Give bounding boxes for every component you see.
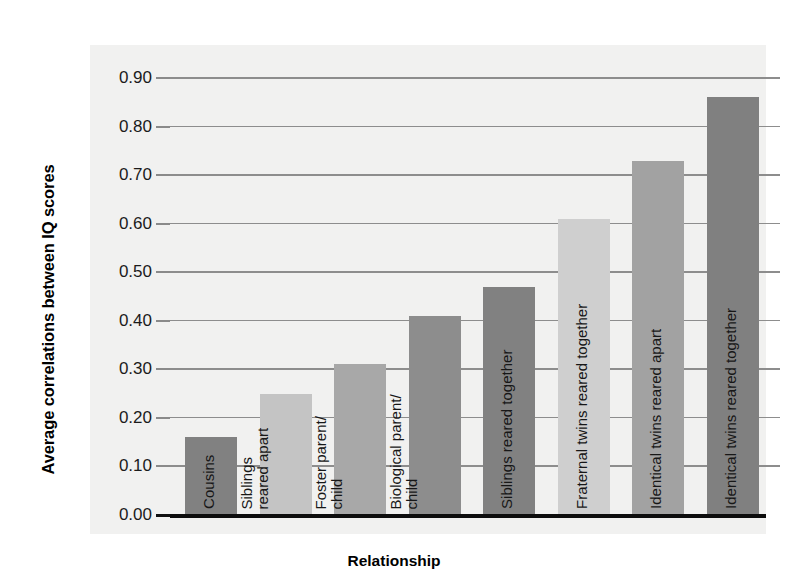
- y-axis-tick-mark: [156, 465, 170, 467]
- y-axis-tick-mark: [156, 223, 170, 225]
- y-axis-tick-mark: [156, 126, 170, 128]
- y-axis-tick-label: 0.10: [98, 457, 152, 474]
- y-axis-tick-label: 0.30: [98, 360, 152, 377]
- bar-category-label: Cousins: [201, 455, 217, 509]
- bar-category-label-line: Fraternal twins reared together: [573, 304, 590, 509]
- y-axis-tick-label: 0.90: [98, 69, 152, 86]
- y-axis-tick-mark: [156, 271, 170, 273]
- y-axis-tick-mark: [156, 417, 170, 419]
- gridline-right-stub: [766, 126, 780, 128]
- bar-category-label: Foster parent/child: [313, 416, 345, 509]
- bar-category-label: Siblings reared together: [499, 350, 515, 509]
- bar-category-label-line: Biological parent/: [386, 394, 403, 509]
- y-axis-title: Average correlations between IQ scores: [39, 120, 58, 520]
- gridline-right-stub: [766, 465, 780, 467]
- y-axis-tick-label: 0.60: [98, 215, 152, 232]
- plot-inner-region: CousinsSiblingsreared apartFoster parent…: [170, 45, 766, 534]
- bar-slot: Identical twins reared apart: [632, 45, 684, 534]
- y-axis-tick-labels: 0.900.800.700.600.500.400.300.200.100.00: [90, 45, 152, 534]
- x-axis-title: Relationship: [0, 552, 788, 570]
- bar-category-label: Biological parent/child: [387, 394, 419, 509]
- bar-category-label-line: Identical twins reared together: [722, 308, 739, 509]
- bar-category-label-line: Siblings reared together: [498, 350, 515, 509]
- bar-category-label-line: Siblings: [237, 456, 254, 509]
- y-axis-tick-label: 0.50: [98, 263, 152, 280]
- gridline-right-stub: [766, 271, 780, 273]
- gridline-right-stub: [766, 174, 780, 176]
- y-axis-tick-label: 0.00: [98, 506, 152, 523]
- x-axis-baseline: [170, 514, 766, 518]
- bar-category-label-line: Foster parent/: [312, 416, 329, 509]
- y-axis-tick-label: 0.20: [98, 409, 152, 426]
- bar-category-label-line: Identical twins reared apart: [647, 329, 664, 509]
- bar-slot: Identical twins reared together: [707, 45, 759, 534]
- y-axis-tick-mark: [156, 77, 170, 79]
- bar-slot: Biological parent/child: [409, 45, 461, 534]
- gridline-right-stub: [766, 320, 780, 322]
- bar-slot: Siblings reared together: [483, 45, 535, 534]
- bar-slot: Fraternal twins reared together: [558, 45, 610, 534]
- bar-category-label: Siblingsreared apart: [238, 427, 270, 509]
- bar-category-label-line: reared apart: [254, 427, 270, 509]
- y-axis-tick-label: 0.80: [98, 118, 152, 135]
- y-axis-tick-mark: [156, 514, 170, 517]
- bar-category-label-line: child: [329, 416, 345, 509]
- y-axis-tick-label: 0.40: [98, 312, 152, 329]
- plot-area: 0.900.800.700.600.500.400.300.200.100.00…: [90, 45, 766, 534]
- bar-category-label-line: Cousins: [200, 455, 217, 509]
- y-axis-tick-label: 0.70: [98, 166, 152, 183]
- bar-slot: Siblingsreared apart: [260, 45, 312, 534]
- bar-category-label: Fraternal twins reared together: [574, 304, 590, 509]
- y-axis-tick-mark: [156, 368, 170, 370]
- bar-category-label: Identical twins reared apart: [648, 329, 664, 509]
- bar-category-label: Identical twins reared together: [723, 308, 739, 509]
- gridline-right-stub: [766, 368, 780, 370]
- gridline-right-stub: [766, 77, 780, 79]
- bar-slot: Foster parent/child: [334, 45, 386, 534]
- chart-container: Average correlations between IQ scores 0…: [0, 0, 788, 586]
- bar-category-label-line: child: [403, 394, 419, 509]
- bar-slot: Cousins: [185, 45, 237, 534]
- y-axis-tick-mark: [156, 174, 170, 176]
- y-axis-tick-mark: [156, 320, 170, 322]
- bar-series: CousinsSiblingsreared apartFoster parent…: [170, 45, 766, 534]
- gridline-right-stub: [766, 417, 780, 419]
- gridline-right-stub: [766, 223, 780, 225]
